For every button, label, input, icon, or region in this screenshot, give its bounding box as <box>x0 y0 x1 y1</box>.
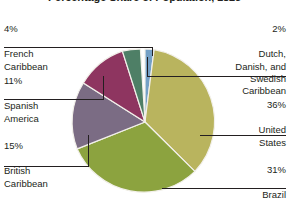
pie-label-brazil: 31% Brazil <box>216 152 286 202</box>
pie-label-british-caribbean-percent: 15% <box>4 140 84 152</box>
pie-label-dutch-caribbean: 2% Dutch, Danish, and Swedish Caribbean <box>196 11 286 98</box>
leader-line-british-caribbean-vertical <box>88 135 89 167</box>
pie-label-dutch-caribbean-percent: 2% <box>196 23 286 35</box>
pie-label-british-caribbean: 15% British Caribbean <box>4 128 84 190</box>
pie-label-brazil-percent: 31% <box>216 164 286 176</box>
pie-label-british-caribbean-name: British Caribbean <box>4 165 48 188</box>
pie-label-united-states-name: United States <box>259 124 286 147</box>
leader-line-dutch-caribbean-vertical <box>147 57 148 77</box>
pie-label-french-caribbean-percent: 4% <box>4 23 84 35</box>
pie-slices <box>72 49 215 192</box>
leader-line-french-caribbean-vertical <box>152 47 153 56</box>
pie-chart-figure: Percentage Share of Population, 1825 <box>0 0 289 206</box>
pie-label-spanish-america: 11% Spanish America <box>4 63 84 125</box>
pie-label-united-states-percent: 36% <box>216 99 286 111</box>
pie-label-united-states: 36% United States <box>216 87 286 149</box>
leader-line-spanish-america-vertical <box>103 76 104 100</box>
pie-label-spanish-america-percent: 11% <box>4 75 84 87</box>
pie-label-brazil-name: Brazil <box>262 189 286 200</box>
pie-label-spanish-america-name: Spanish America <box>4 100 39 123</box>
